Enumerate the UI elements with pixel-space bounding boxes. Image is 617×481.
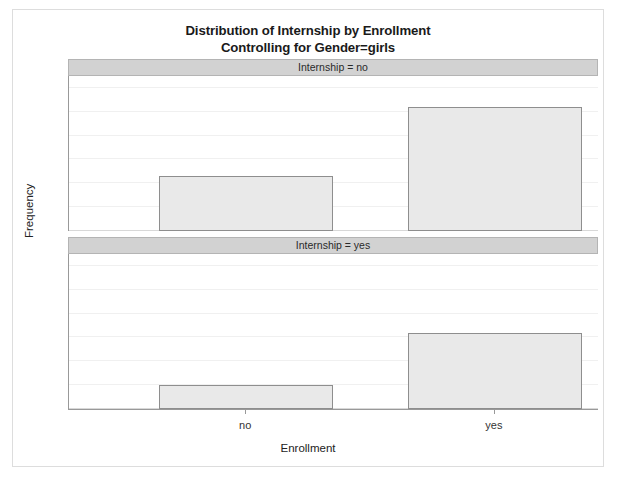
bar-no[interactable] bbox=[159, 385, 334, 409]
panel-internship-yes: Internship = yes 0102030405060 bbox=[68, 237, 598, 409]
bar-yes[interactable] bbox=[408, 107, 583, 231]
x-tick-mark bbox=[494, 409, 495, 414]
y-tick-mark bbox=[68, 384, 69, 385]
y-tick-mark bbox=[68, 360, 69, 361]
chart-title-line-2: Controlling for Gender=girls bbox=[13, 39, 603, 56]
y-tick-mark bbox=[68, 230, 69, 231]
panel-header-internship-no: Internship = no bbox=[68, 59, 598, 76]
y-tick-mark bbox=[68, 111, 69, 112]
y-tick-mark bbox=[68, 336, 69, 337]
panel-internship-no: Internship = no 0102030405060 bbox=[68, 59, 598, 231]
plot-area-internship-no: 0102030405060 bbox=[68, 76, 598, 231]
y-tick-mark bbox=[68, 87, 69, 88]
y-tick-mark bbox=[68, 289, 69, 290]
gridline bbox=[69, 313, 598, 314]
chart-card: Distribution of Internship by Enrollment… bbox=[12, 9, 604, 467]
bar-yes[interactable] bbox=[408, 333, 583, 409]
bar-no[interactable] bbox=[159, 176, 334, 231]
plot-area-internship-yes: 0102030405060 bbox=[68, 254, 598, 409]
clipped-text-fragment bbox=[31, 10, 271, 16]
x-tick-mark bbox=[245, 409, 246, 414]
x-axis: noyes bbox=[68, 409, 598, 410]
chart-title: Distribution of Internship by Enrollment… bbox=[13, 22, 603, 56]
x-tick-label-yes: yes bbox=[485, 419, 502, 431]
y-tick-mark bbox=[68, 206, 69, 207]
y-tick-mark bbox=[68, 135, 69, 136]
y-tick-mark bbox=[68, 265, 69, 266]
y-axis-label: Frequency bbox=[23, 184, 35, 238]
gridline bbox=[69, 87, 598, 88]
y-tick-mark bbox=[68, 182, 69, 183]
y-tick-mark bbox=[68, 313, 69, 314]
gridline bbox=[69, 265, 598, 266]
chart-title-line-1: Distribution of Internship by Enrollment bbox=[185, 23, 430, 38]
x-axis-label: Enrollment bbox=[13, 442, 603, 454]
y-tick-mark bbox=[68, 158, 69, 159]
panel-header-internship-yes: Internship = yes bbox=[68, 237, 598, 254]
x-tick-label-no: no bbox=[239, 419, 251, 431]
gridline bbox=[69, 289, 598, 290]
